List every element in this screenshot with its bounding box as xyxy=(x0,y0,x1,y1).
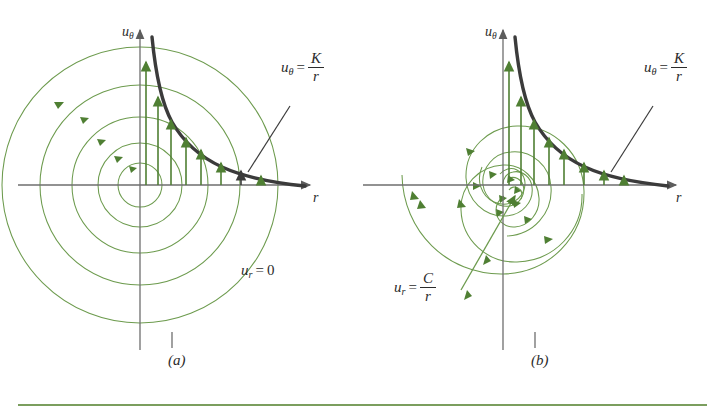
figure-container: uθ r uθ r uθ=Kr uθ=Kr ur=0 ur=Cr (a) (b) xyxy=(0,0,725,419)
caption-ticks xyxy=(0,0,725,419)
footer-divider-rule xyxy=(18,404,707,406)
